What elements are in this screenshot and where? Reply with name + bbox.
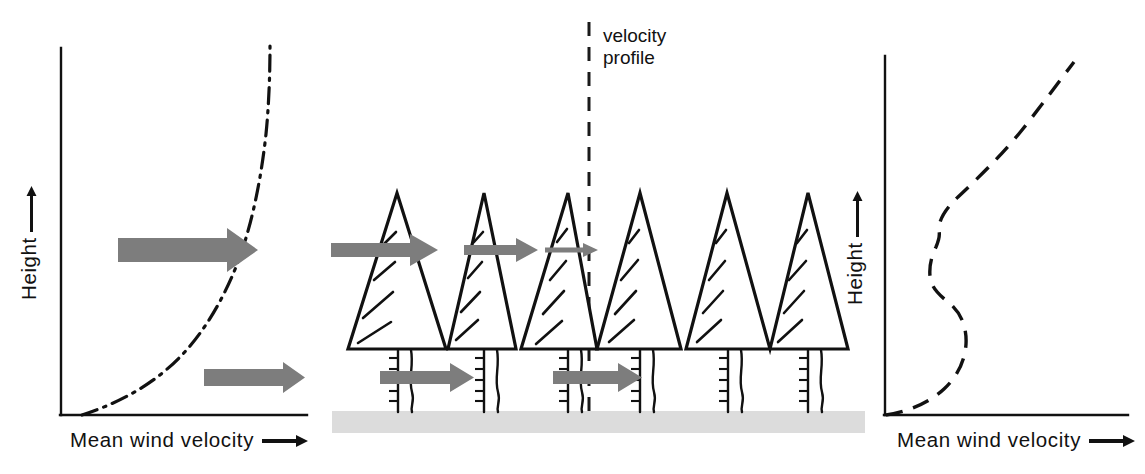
right-panel: Height Mean wind velocity (843, 56, 1135, 451)
tree-5-6-merged-crown (686, 193, 848, 349)
left-y-axis-arrow (27, 186, 37, 232)
left-velocity-profile-curve (82, 46, 270, 415)
tree-2-crown (448, 193, 516, 349)
right-x-axis-arrow (1089, 435, 1135, 447)
ground-surface (332, 411, 865, 433)
arrow-trunk-1 (380, 363, 474, 392)
arrow-trunk-open (204, 362, 305, 393)
right-y-axis-label: Height (843, 242, 866, 305)
left-x-axis-label: Mean wind velocity (70, 428, 254, 451)
right-y-axis-arrow (853, 191, 863, 237)
left-y-axis-label-group: Height (17, 186, 40, 300)
arrow-trunk-2 (553, 363, 642, 392)
wind-profile-diagram: Height Mean wind velocity velocity profi… (0, 0, 1145, 474)
left-y-axis-label: Height (17, 237, 40, 300)
left-panel: Height Mean wind velocity (17, 46, 308, 451)
tree-6-trunk (808, 350, 823, 412)
right-x-axis-label: Mean wind velocity (897, 428, 1081, 451)
arrow-open-air (118, 228, 258, 272)
tree-1-crown (348, 193, 446, 349)
velocity-profile-label-line1: velocity (603, 25, 667, 46)
tree-4-crown (597, 193, 681, 349)
left-x-axis-arrow (262, 435, 308, 447)
right-velocity-profile-curve (886, 62, 1074, 415)
center-panel: velocity profile (331, 22, 865, 433)
tree-5 (719, 350, 743, 412)
tree-5-trunk (728, 350, 743, 412)
tree-6 (799, 350, 823, 412)
right-y-axis-label-group: Height (843, 191, 866, 305)
tree-2-trunk (484, 350, 499, 412)
tree-4-trunk (640, 350, 655, 412)
velocity-profile-label-line2: profile (603, 47, 655, 68)
